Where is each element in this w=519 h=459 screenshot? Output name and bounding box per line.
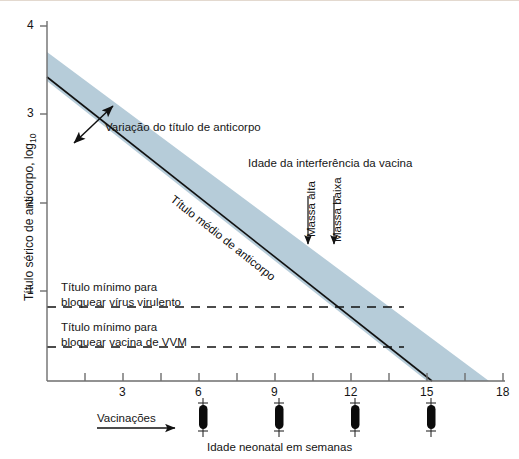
y-tick-label-1: 1: [27, 283, 34, 297]
x-tick-label-15: 15: [420, 385, 433, 399]
x-axis-title: Idade neonatal em semanas: [207, 441, 352, 453]
high-mass-label: Massa alta: [304, 181, 319, 237]
y-tick-label-3: 3: [27, 106, 34, 120]
y-tick-label-4: 4: [27, 18, 34, 32]
x-tick-label-18: 18: [496, 385, 509, 399]
y-axis-title: Título sérico de anticorpo, log10: [22, 133, 39, 301]
threshold-virulent-virus-label: Título mínimo para bloquear vírus virule…: [61, 280, 181, 310]
threshold-vvm-vaccine-label: Título mínimo para bloquear vacina de VV…: [61, 320, 187, 350]
vaccinations-label: Vacinações: [97, 411, 156, 426]
threshold-vvm-vaccine-line1: Título mínimo para: [61, 321, 157, 333]
threshold-vvm-vaccine-line2: bloquear vacina de VVM: [61, 336, 187, 348]
threshold-virulent-virus-line1: Título mínimo para: [61, 281, 157, 293]
syringe-icon-week-15: [426, 398, 436, 437]
x-tick-label-3: 3: [119, 385, 126, 399]
threshold-virulent-virus-line2: bloquear vírus virulento: [61, 296, 181, 308]
y-axis-title-text: Título sérico de anticorpo, log: [22, 143, 36, 301]
variation-annotation-label: Variação do título de anticorpo: [105, 120, 261, 135]
x-tick-label-9: 9: [271, 385, 278, 399]
syringe-icon-week-12: [350, 398, 360, 437]
syringe-icon-week-6: [198, 398, 208, 437]
y-tick-label-2: 2: [27, 195, 34, 209]
x-tick-label-6: 6: [195, 385, 202, 399]
chart-canvas: [0, 1, 519, 459]
y-axis-ticks: [40, 26, 47, 291]
low-mass-label: Massa baixa: [330, 177, 345, 242]
figure-container: Título sérico de anticorpo, log10 4 3 2 …: [0, 0, 519, 459]
y-axis-title-subscript: 10: [28, 133, 38, 143]
x-tick-label-12: 12: [344, 385, 357, 399]
vaccine-interference-header: Idade da interferência da vacina: [248, 156, 412, 171]
syringe-icon-week-9: [274, 398, 284, 437]
